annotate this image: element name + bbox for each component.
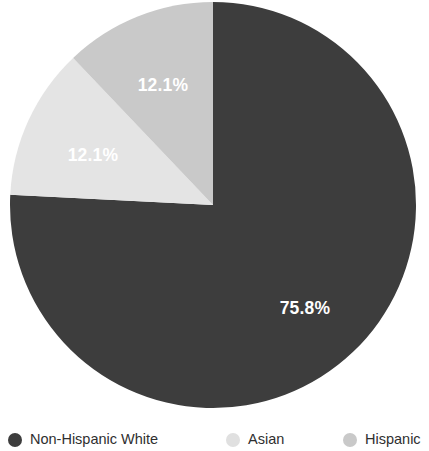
pie-slice-label-non-hispanic-white: 75.8% xyxy=(280,298,331,318)
legend-swatch-icon xyxy=(8,433,22,447)
pie-slices xyxy=(10,2,416,408)
legend-swatch-icon xyxy=(226,433,240,447)
pie-svg: 75.8% 12.1% 12.1% xyxy=(0,0,429,415)
legend-item-hispanic[interactable]: Hispanic xyxy=(343,428,421,451)
pie-slice-label-asian: 12.1% xyxy=(68,145,119,165)
pie-slice-label-hispanic: 12.1% xyxy=(138,75,189,95)
legend-swatch-icon xyxy=(343,433,357,447)
chart-legend: Non-Hispanic White Asian Hispanic xyxy=(0,428,429,451)
legend-item-non-hispanic-white[interactable]: Non-Hispanic White xyxy=(8,428,158,451)
legend-item-asian[interactable]: Asian xyxy=(226,428,284,451)
legend-label-asian: Asian xyxy=(248,432,284,447)
pie-chart: 75.8% 12.1% 12.1% Non-Hispanic White Asi… xyxy=(0,0,429,451)
legend-label-non-hispanic-white: Non-Hispanic White xyxy=(30,432,158,447)
legend-label-hispanic: Hispanic xyxy=(365,432,421,447)
pie-plot-area: 75.8% 12.1% 12.1% xyxy=(0,0,429,415)
